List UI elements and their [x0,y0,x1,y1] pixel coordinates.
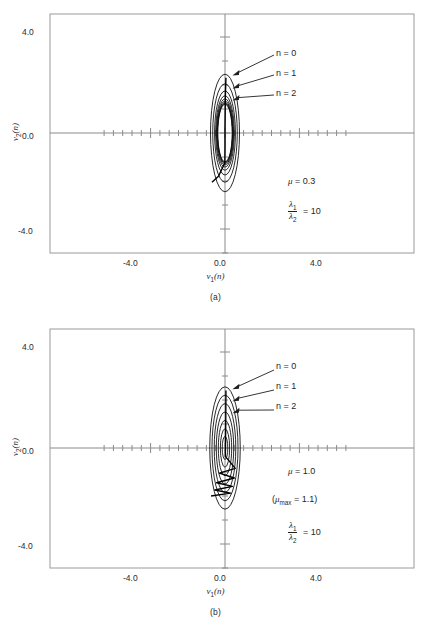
contour-label-a-1: n = 1 [276,68,296,78]
panel-b: 4.0 0.0 -4.0 -4.0 0.0 4.0 ν2(n) ν1(n) n … [0,315,431,630]
axis-title-x-b: ν1(n) [0,586,431,598]
annot-b-mu: μ = 1.0 [288,466,315,476]
ytick-b-2: -4.0 [18,541,33,551]
contour-label-b-0: n = 0 [276,361,296,371]
annot-a-ratio: λ1 λ2 = 10 [288,200,321,224]
annot-b-ratio: λ1 λ2 = 10 [288,521,321,545]
ytick-b-0: 4.0 [22,342,34,352]
ytick-a-1: 0.0 [22,131,34,141]
xtick-a-1: 0.0 [214,258,226,268]
contour-label-b-1: n = 1 [276,381,296,391]
axis-title-x-a: ν1(n) [0,271,431,283]
ytick-a-2: -4.0 [18,226,33,236]
axis-title-y-a: ν2(n) [10,102,22,162]
contour-label-a-2: n = 2 [276,88,296,98]
panel-caption-a: (a) [0,292,431,302]
ytick-b-1: 0.0 [22,446,34,456]
xtick-b-2: 4.0 [310,573,322,583]
contour-label-a-0: n = 0 [276,48,296,58]
annot-a-mu: μ = 0.3 [288,176,315,186]
figure-root: 4.0 0.0 -4.0 -4.0 0.0 4.0 ν2(n) ν1(n) n … [0,0,431,630]
contour-label-b-2: n = 2 [276,401,296,411]
axis-title-y-b: ν2(n) [10,417,22,477]
panel-caption-b: (b) [0,607,431,617]
xtick-a-0: -4.0 [123,258,138,268]
annot-b-mumax: (μmax = 1.1) [272,494,317,506]
xtick-b-1: 0.0 [214,573,226,583]
ytick-a-0: 4.0 [22,27,34,37]
panel-a: 4.0 0.0 -4.0 -4.0 0.0 4.0 ν2(n) ν1(n) n … [0,0,431,315]
xtick-b-0: -4.0 [123,573,138,583]
xtick-a-2: 4.0 [310,258,322,268]
